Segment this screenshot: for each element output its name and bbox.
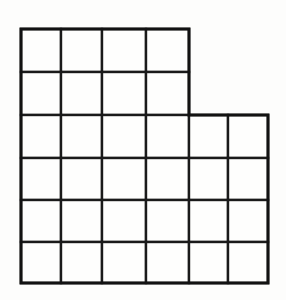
grid-cell-r0-c3 [146, 29, 189, 72]
grid-cell-r2-c1 [61, 115, 102, 158]
staircase-grid-figure [0, 0, 286, 300]
grid-cell-r3-c1 [61, 158, 102, 200]
grid-cell-r4-c5 [228, 200, 268, 242]
grid-cell-r2-c3 [146, 115, 189, 158]
grid-cell-r1-c0 [21, 72, 61, 115]
grid-cell-r3-c2 [102, 158, 146, 200]
grid-cell-r1-c3 [146, 72, 189, 115]
grid-cell-r0-c0 [21, 29, 61, 72]
grid-cell-r1-c2 [102, 72, 146, 115]
grid-cell-r4-c3 [146, 200, 189, 242]
grid-cell-r5-c1 [61, 242, 102, 283]
figure-root [0, 0, 286, 300]
grid-cell-r5-c4 [189, 242, 228, 283]
grid-cell-r3-c4 [189, 158, 228, 200]
grid-cell-r4-c2 [102, 200, 146, 242]
grid-cell-r5-c5 [228, 242, 268, 283]
grid-cell-r2-c4 [189, 115, 228, 158]
grid-cell-r2-c5 [228, 115, 268, 158]
grid-cell-r2-c0 [21, 115, 61, 158]
grid-cells-layer [21, 29, 268, 283]
grid-cell-r4-c1 [61, 200, 102, 242]
grid-cell-r3-c3 [146, 158, 189, 200]
grid-cell-r3-c5 [228, 158, 268, 200]
grid-cell-r0-c2 [102, 29, 146, 72]
grid-cell-r1-c1 [61, 72, 102, 115]
grid-cell-r4-c4 [189, 200, 228, 242]
grid-cell-r3-c0 [21, 158, 61, 200]
grid-cell-r0-c1 [61, 29, 102, 72]
grid-cell-r4-c0 [21, 200, 61, 242]
grid-cell-r5-c0 [21, 242, 61, 283]
grid-cell-r5-c3 [146, 242, 189, 283]
grid-cell-r5-c2 [102, 242, 146, 283]
grid-cell-r2-c2 [102, 115, 146, 158]
